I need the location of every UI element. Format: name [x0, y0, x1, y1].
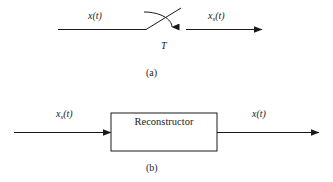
reconstructor-block-label: Reconstructor — [111, 117, 217, 128]
panel-a-output-signal-label: xs(t) — [208, 11, 225, 23]
panel-b-input-signal-label: xs(t) — [56, 109, 73, 121]
figure-root: x(t) xs(t) T (a) xs(t) Reconstructor x(t… — [0, 0, 333, 182]
panel-b-reconstructor: xs(t) Reconstructor x(t) (b) — [0, 91, 333, 182]
panel-b-drawing — [0, 91, 333, 182]
panel-b-caption: (b) — [146, 163, 158, 173]
switch-arc-arrow — [144, 12, 172, 27]
panel-b-input-arg: (t) — [63, 108, 72, 119]
panel-a-input-signal-label: x(t) — [88, 11, 102, 21]
panel-a-output-arg: (t) — [215, 10, 224, 21]
sampling-period-label: T — [161, 41, 167, 51]
panel-a-caption: (a) — [146, 68, 157, 78]
switch-blade-line — [146, 8, 181, 30]
panel-b-output-signal-label: x(t) — [252, 109, 266, 119]
panel-a-sampling-switch: x(t) xs(t) T (a) — [0, 0, 333, 91]
